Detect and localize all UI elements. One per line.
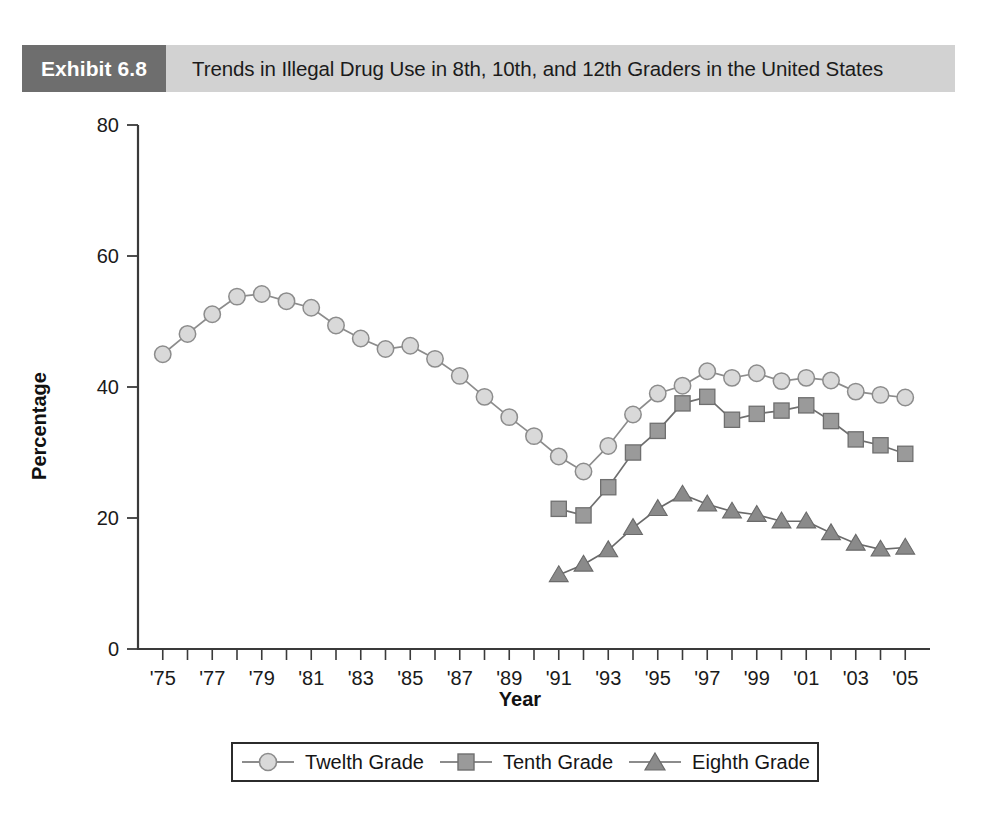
data-point-marker: [848, 383, 864, 399]
y-tick-label: 20: [97, 507, 119, 529]
data-point-marker: [526, 428, 542, 444]
data-point-marker: [204, 306, 220, 322]
x-tick-label: '99: [744, 667, 770, 689]
data-point-marker: [625, 406, 641, 422]
data-point-marker: [625, 445, 640, 460]
data-point-marker: [648, 500, 667, 516]
data-point-marker: [724, 412, 739, 427]
x-tick-label: '89: [496, 667, 522, 689]
data-point-marker: [872, 387, 888, 403]
data-point-marker: [749, 406, 764, 421]
legend-item-tenth-grade[interactable]: Tenth Grade: [438, 751, 613, 774]
y-tick-label: 80: [97, 114, 119, 136]
data-point-marker: [476, 389, 492, 405]
data-point-marker: [600, 438, 616, 454]
data-point-marker: [773, 373, 789, 389]
x-tick-label: '03: [843, 667, 869, 689]
data-point-marker: [749, 365, 765, 381]
data-point-marker: [897, 389, 913, 405]
legend-label: Eighth Grade: [692, 751, 810, 774]
x-tick-label: '01: [793, 667, 819, 689]
data-point-marker: [254, 286, 270, 302]
y-axis-ticks: 020406080: [97, 114, 138, 660]
x-tick-label: '05: [892, 667, 918, 689]
exhibit-title: Trends in Illegal Drug Use in 8th, 10th,…: [166, 45, 955, 92]
data-point-marker: [823, 372, 839, 388]
data-point-marker: [673, 485, 692, 501]
x-tick-label: '85: [397, 667, 423, 689]
square-marker-icon: [438, 751, 494, 773]
data-point-marker: [229, 288, 245, 304]
x-tick-label: '79: [249, 667, 275, 689]
data-point-marker: [699, 363, 715, 379]
data-point-marker: [799, 398, 814, 413]
data-point-marker: [848, 432, 863, 447]
data-point-marker: [650, 423, 665, 438]
data-point-marker: [873, 438, 888, 453]
x-tick-label: '83: [348, 667, 374, 689]
data-point-marker: [797, 512, 816, 528]
data-point-marker: [700, 389, 715, 404]
chart-container: 020406080 '75'77'79'81'83'85'87'89'91'93…: [0, 96, 998, 736]
data-point-marker: [551, 501, 566, 516]
data-point-marker: [674, 377, 690, 393]
data-point-marker: [549, 566, 568, 582]
exhibit-header: Exhibit 6.8 Trends in Illegal Drug Use i…: [22, 45, 955, 92]
data-point-marker: [574, 555, 593, 571]
data-point-marker: [601, 480, 616, 495]
x-tick-label: '77: [199, 667, 225, 689]
chart-series: [155, 286, 915, 582]
data-point-marker: [575, 463, 591, 479]
data-point-marker: [353, 330, 369, 346]
exhibit-number-tag: Exhibit 6.8: [22, 45, 166, 92]
data-point-marker: [155, 346, 171, 362]
data-point-marker: [328, 317, 344, 333]
x-tick-label: '87: [447, 667, 473, 689]
data-point-marker: [377, 341, 393, 357]
data-point-marker: [402, 338, 418, 354]
data-point-marker: [624, 519, 643, 535]
y-axis-title: Percentage: [28, 372, 50, 480]
data-point-marker: [846, 534, 865, 550]
circle-marker-icon: [240, 751, 296, 773]
line-chart: 020406080 '75'77'79'81'83'85'87'89'91'93…: [0, 96, 998, 736]
series-twelth-grade: [155, 286, 914, 480]
data-point-marker: [650, 385, 666, 401]
x-tick-label: '95: [645, 667, 671, 689]
legend-label: Twelth Grade: [305, 751, 424, 774]
data-point-marker: [724, 370, 740, 386]
x-axis-title: Year: [499, 688, 541, 710]
triangle-marker-icon: [627, 751, 683, 773]
chart-legend: Twelth Grade Tenth Grade Eighth Grade: [231, 742, 819, 782]
data-point-marker: [501, 409, 517, 425]
data-point-marker: [822, 524, 841, 540]
data-point-marker: [551, 448, 567, 464]
legend-label: Tenth Grade: [503, 751, 613, 774]
data-point-marker: [896, 538, 915, 554]
legend-item-twelth-grade[interactable]: Twelth Grade: [240, 751, 424, 774]
data-point-marker: [675, 396, 690, 411]
series-eighth-grade: [549, 485, 914, 581]
y-tick-label: 40: [97, 376, 119, 398]
data-point-marker: [303, 300, 319, 316]
data-point-marker: [698, 495, 717, 511]
data-point-marker: [452, 368, 468, 384]
y-tick-label: 60: [97, 245, 119, 267]
y-tick-label: 0: [108, 638, 119, 660]
x-tick-label: '81: [298, 667, 324, 689]
data-point-marker: [774, 403, 789, 418]
x-tick-label: '93: [595, 667, 621, 689]
data-point-marker: [427, 351, 443, 367]
data-point-marker: [179, 326, 195, 342]
x-tick-label: '75: [150, 667, 176, 689]
x-tick-label: '91: [546, 667, 572, 689]
chart-axes: [138, 125, 930, 649]
x-tick-label: '97: [694, 667, 720, 689]
data-point-marker: [576, 508, 591, 523]
legend-item-eighth-grade[interactable]: Eighth Grade: [627, 751, 810, 774]
data-point-marker: [898, 446, 913, 461]
data-point-marker: [798, 370, 814, 386]
data-point-marker: [278, 293, 294, 309]
x-axis-ticks: '75'77'79'81'83'85'87'89'91'93'95'97'99'…: [150, 649, 919, 689]
data-point-marker: [823, 413, 838, 428]
